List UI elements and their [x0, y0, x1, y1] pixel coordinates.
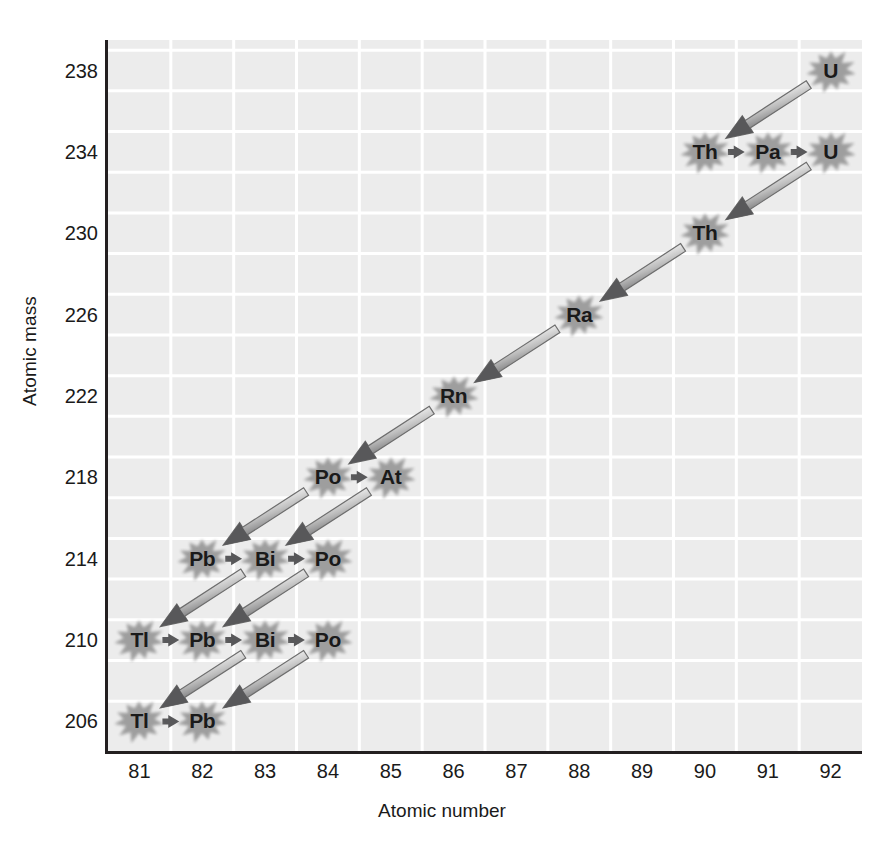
decay-chain-chart: Atomic mass 238234230226222218214210206 …: [0, 0, 884, 857]
x-axis-tick-labels: 818283848586878889909192: [0, 0, 884, 857]
x-tick-label: 82: [177, 760, 227, 783]
x-tick-label: 84: [303, 760, 353, 783]
x-tick-label: 83: [240, 760, 290, 783]
x-axis-title: Atomic number: [0, 800, 884, 822]
x-tick-label: 91: [743, 760, 793, 783]
x-tick-label: 87: [491, 760, 541, 783]
x-tick-label: 92: [806, 760, 856, 783]
x-tick-label: 81: [114, 760, 164, 783]
x-tick-label: 86: [429, 760, 479, 783]
x-tick-label: 90: [680, 760, 730, 783]
x-tick-label: 88: [554, 760, 604, 783]
x-tick-label: 85: [366, 760, 416, 783]
x-tick-label: 89: [617, 760, 667, 783]
